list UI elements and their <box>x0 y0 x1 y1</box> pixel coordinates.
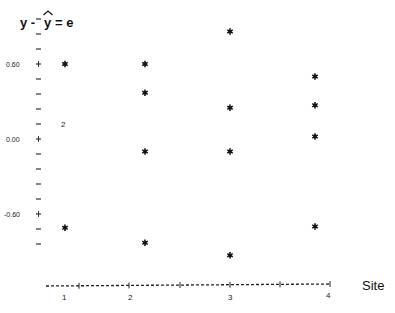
y-tick-label-0.00: 0.00 <box>6 136 20 143</box>
asterisk-marker-icon <box>62 61 68 67</box>
asterisk-marker-icon <box>312 223 318 229</box>
x-tick-label-4: 4 <box>326 291 331 300</box>
asterisk-marker-icon <box>142 240 148 246</box>
asterisk-marker-icon <box>142 148 148 154</box>
title-left: y - <box>20 15 35 30</box>
asterisk-marker-icon <box>142 90 148 96</box>
asterisk-marker-icon <box>227 252 233 258</box>
asterisk-marker-icon <box>142 61 148 67</box>
asterisk-marker-icon <box>312 133 318 139</box>
residual-scatter-chart: y - y = e 0.60 0.00 -0.60 1 2 3 4 Site 2 <box>0 0 395 313</box>
asterisk-marker-icon <box>312 73 318 79</box>
asterisk-marker-icon <box>227 148 233 154</box>
asterisk-marker-icon <box>62 225 68 231</box>
y-tick-label--0.60: -0.60 <box>4 211 20 218</box>
x-axis-line <box>46 284 330 286</box>
data-points <box>62 28 318 258</box>
y-tick-label-0.60: 0.60 <box>6 61 20 68</box>
title-hat-y: y <box>44 15 52 30</box>
asterisk-marker-icon <box>227 28 233 34</box>
x-tick-label-2: 2 <box>128 293 133 302</box>
title-right: = e <box>55 15 73 30</box>
y-axis <box>36 19 41 244</box>
chart-title: y - y = e <box>20 11 73 30</box>
x-axis-label: Site <box>362 278 384 293</box>
asterisk-marker-icon <box>227 105 233 111</box>
x-tick-label-1: 1 <box>62 293 67 302</box>
x-tick-label-3: 3 <box>228 293 233 302</box>
x-axis <box>46 281 330 289</box>
coincident-count-label: 2 <box>61 120 66 129</box>
asterisk-marker-icon <box>312 102 318 108</box>
